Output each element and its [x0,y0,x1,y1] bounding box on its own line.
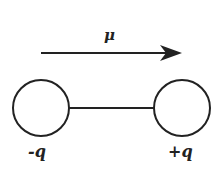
positive-charge-sphere [154,80,210,136]
dipole-arrow [41,45,182,61]
dipole-diagram: μ -q +q [0,0,220,172]
positive-charge-label: +q [168,142,193,161]
dipole-moment-label: μ [104,26,115,44]
negative-charge-sphere [13,80,69,136]
negative-charge-label: -q [28,142,46,161]
